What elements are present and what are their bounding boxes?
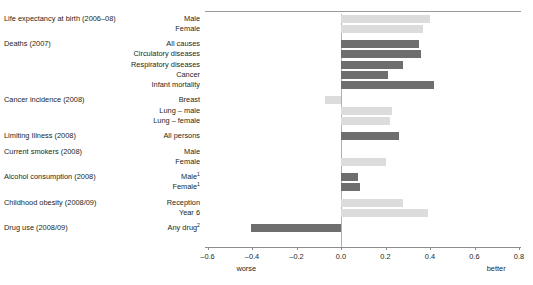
item-label: Year 6 bbox=[179, 208, 200, 217]
item-label: Male bbox=[184, 147, 200, 156]
x-axis-tick-label: 0.2 bbox=[366, 252, 406, 261]
bar bbox=[341, 71, 388, 79]
footnote-marker: 1 bbox=[197, 181, 200, 187]
item-label: Female bbox=[175, 24, 200, 33]
group-label: Limiting Illness (2008) bbox=[4, 131, 76, 140]
group-label: Cancer incidence (2008) bbox=[4, 95, 85, 104]
item-label: Breast bbox=[179, 95, 200, 104]
group-label: Life expectancy at birth (2006–08) bbox=[4, 14, 116, 23]
item-label: Respiratory diseases bbox=[131, 60, 200, 69]
bar bbox=[341, 25, 423, 33]
item-label: Lung – female bbox=[153, 116, 200, 125]
bar bbox=[251, 224, 341, 232]
group-label: Alcohol consumption (2008) bbox=[4, 172, 96, 181]
item-label: All persons bbox=[163, 131, 200, 140]
x-axis-tick-label: 0.0 bbox=[321, 252, 361, 261]
bar bbox=[341, 50, 421, 58]
axis-label-better: better bbox=[487, 264, 506, 273]
x-axis-tick bbox=[475, 247, 476, 250]
category-labels-layer: Life expectancy at birth (2006–08)MaleFe… bbox=[0, 0, 205, 285]
bar bbox=[325, 96, 341, 104]
item-label: Female bbox=[175, 157, 200, 166]
x-axis-tick-label: 0.8 bbox=[499, 252, 533, 261]
footnote-marker: 1 bbox=[197, 171, 200, 177]
x-axis-tick bbox=[208, 247, 209, 250]
item-label: Lung – male bbox=[159, 106, 200, 115]
bar bbox=[341, 183, 360, 191]
bar bbox=[341, 158, 386, 166]
item-label: Cancer bbox=[176, 70, 200, 79]
x-axis-tick bbox=[252, 247, 253, 250]
bar bbox=[341, 40, 419, 48]
item-label: All causes bbox=[166, 39, 200, 48]
x-axis-tick-label: 0.4 bbox=[410, 252, 450, 261]
item-label: Circulatory diseases bbox=[133, 49, 200, 58]
group-label: Current smokers (2008) bbox=[4, 147, 82, 156]
bar bbox=[341, 199, 403, 207]
group-label: Childhood obesity (2008/09) bbox=[4, 198, 96, 207]
item-label: Infant mortality bbox=[152, 80, 200, 89]
footnote-marker: 2 bbox=[197, 222, 200, 228]
x-axis-tick-label: –0.2 bbox=[277, 252, 317, 261]
bar bbox=[341, 173, 358, 181]
top-rule bbox=[205, 11, 521, 12]
x-axis-tick-label: –0.4 bbox=[232, 252, 272, 261]
group-label: Drug use (2008/09) bbox=[4, 223, 68, 232]
bar bbox=[341, 132, 399, 140]
axis-label-worse: worse bbox=[236, 264, 256, 273]
bar bbox=[341, 61, 403, 69]
bar bbox=[341, 107, 392, 115]
x-axis-tick bbox=[430, 247, 431, 250]
bar bbox=[341, 117, 390, 125]
x-axis-tick bbox=[341, 247, 342, 250]
x-axis-tick bbox=[386, 247, 387, 250]
item-label: Male1 bbox=[181, 172, 200, 181]
x-axis-tick-label: –0.6 bbox=[188, 252, 228, 261]
item-label: Any drug2 bbox=[168, 223, 200, 232]
bar bbox=[341, 15, 430, 23]
item-label: Female1 bbox=[172, 182, 200, 191]
item-label: Male bbox=[184, 14, 200, 23]
bar bbox=[341, 81, 434, 89]
x-axis-tick bbox=[519, 247, 520, 250]
x-axis-tick bbox=[297, 247, 298, 250]
bar bbox=[341, 209, 428, 217]
plot-area: –0.6–0.4–0.20.00.20.40.60.8 worse better bbox=[205, 0, 533, 285]
x-axis-tick-label: 0.6 bbox=[455, 252, 495, 261]
chart-root: Life expectancy at birth (2006–08)MaleFe… bbox=[0, 0, 533, 285]
item-label: Reception bbox=[167, 198, 200, 207]
group-label: Deaths (2007) bbox=[4, 39, 51, 48]
